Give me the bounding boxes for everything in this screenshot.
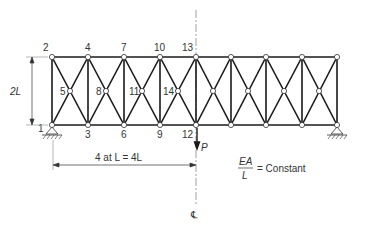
node-label-2: 2 xyxy=(43,42,49,53)
span-label: 4 at L = 4L xyxy=(95,152,143,163)
node-label-5: 5 xyxy=(60,86,66,97)
node-label-12: 12 xyxy=(182,129,194,140)
node-label-13: 13 xyxy=(182,42,194,53)
node-label-4: 4 xyxy=(85,42,91,53)
node-label-7: 7 xyxy=(121,42,127,53)
node-label-11: 11 xyxy=(129,86,140,97)
truss-members xyxy=(52,57,337,125)
truss-diagram: 1 2 3 4 5 6 7 8 9 10 11 12 13 14 2L 4 at… xyxy=(0,0,365,228)
pin-support-right xyxy=(327,127,347,139)
property-denominator: L xyxy=(242,170,248,181)
pin-support-left xyxy=(42,127,62,139)
node-label-9: 9 xyxy=(157,129,163,140)
node-label-8: 8 xyxy=(96,86,102,97)
property-note: EA L = Constant xyxy=(238,156,306,181)
height-label: 2L xyxy=(9,86,21,97)
height-dimension xyxy=(26,57,48,125)
load-arrow xyxy=(195,128,200,149)
property-constant: = Constant xyxy=(257,163,306,174)
node-label-6: 6 xyxy=(121,129,127,140)
load-label: P xyxy=(201,142,208,153)
centerline-symbol: ℄ xyxy=(190,209,198,220)
node-label-10: 10 xyxy=(154,42,166,53)
property-numerator: EA xyxy=(239,156,253,167)
node-label-3: 3 xyxy=(85,129,91,140)
node-label-14: 14 xyxy=(163,86,175,97)
